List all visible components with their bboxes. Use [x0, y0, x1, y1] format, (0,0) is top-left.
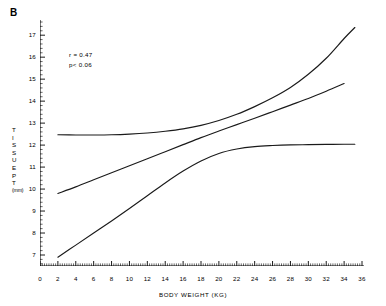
x-tick-label: 18: [192, 276, 210, 282]
x-tick-label: 4: [67, 276, 85, 282]
y-axis-title-char: P: [12, 172, 26, 180]
x-tick-label: 6: [85, 276, 103, 282]
y-axis-title-char: U: [12, 156, 26, 164]
axis-ticks: [40, 22, 362, 266]
x-tick-label: 32: [317, 276, 335, 282]
y-tick-label: 15: [22, 76, 36, 82]
x-tick-label: 2: [49, 276, 67, 282]
y-tick-label: 9: [22, 208, 36, 214]
x-tick-label: 30: [299, 276, 317, 282]
x-axis-title: BODY WEIGHT (KG): [0, 291, 386, 298]
curve-upper-band: [58, 28, 355, 136]
x-tick-label: 8: [103, 276, 121, 282]
plot-area: [40, 20, 364, 266]
y-tick-label: 10: [22, 186, 36, 192]
x-tick-label: 22: [228, 276, 246, 282]
x-tick-label: 28: [281, 276, 299, 282]
curve-lower-band: [58, 144, 355, 257]
axis-lines: [40, 20, 364, 266]
x-tick-label: 24: [246, 276, 264, 282]
x-tick-label: 14: [156, 276, 174, 282]
y-tick-label: 12: [22, 142, 36, 148]
x-tick-label: 10: [120, 276, 138, 282]
y-tick-label: 8: [22, 230, 36, 236]
x-tick-label: 16: [174, 276, 192, 282]
x-tick-label: 34: [335, 276, 353, 282]
y-tick-label: 17: [22, 32, 36, 38]
y-tick-label: 7: [22, 252, 36, 258]
curve-middle-band: [58, 84, 344, 194]
y-axis-title-char: T: [12, 126, 26, 134]
y-tick-label: 13: [22, 120, 36, 126]
x-tick-label: 26: [264, 276, 282, 282]
figure-panel-b: B r = 0.47 p< 0.06 T I S S U E P T (mm) …: [0, 0, 386, 306]
x-tick-label: 0: [31, 276, 49, 282]
panel-label: B: [10, 8, 17, 18]
x-tick-label: 36: [353, 276, 371, 282]
y-tick-label: 11: [22, 164, 36, 170]
plot-canvas: [40, 20, 364, 266]
y-axis-title: T I S S U E P T (mm): [12, 126, 26, 194]
y-axis-title-char: S: [12, 149, 26, 157]
data-curves: [58, 28, 355, 258]
y-axis-title-char: I: [12, 134, 26, 142]
y-tick-label: 14: [22, 98, 36, 104]
y-tick-label: 16: [22, 54, 36, 60]
x-tick-label: 12: [138, 276, 156, 282]
x-tick-label: 20: [210, 276, 228, 282]
